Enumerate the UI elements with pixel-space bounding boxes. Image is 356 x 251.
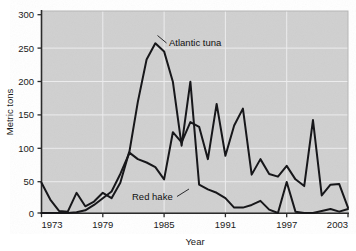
fishery-landings-line-chart: 0 50 100 150 200 250 300 1973 1979 1985 … [0,0,356,251]
x-tick-label-1973: 1973 [42,219,63,230]
x-tick-label-1985: 1985 [154,219,175,230]
y-tick-label-250: 250 [18,43,34,54]
y-tick-label-50: 50 [23,176,34,187]
chart-figure: 0 50 100 150 200 250 300 1973 1979 1985 … [0,0,356,251]
x-tick-label-1997: 1997 [276,219,297,230]
y-tick-label-0: 0 [29,208,34,219]
x-axis-title: Year [185,236,204,247]
x-tick-label-1991: 1991 [215,219,236,230]
annotation-red-hake: Red hake [132,191,173,202]
x-tick-label-1979: 1979 [92,219,113,230]
y-tick-label-200: 200 [18,76,34,87]
y-axis-title: Metric tons [4,89,15,136]
x-tick-label-2003: 2003 [327,219,348,230]
y-tick-label-150: 150 [18,109,34,120]
annotation-atlantic-tuna: Atlantic tuna [169,37,222,48]
y-tick-label-300: 300 [18,9,34,20]
y-tick-label-100: 100 [18,143,34,154]
